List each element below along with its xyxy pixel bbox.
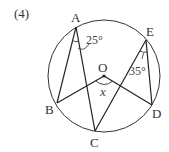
angle-value-O: x xyxy=(99,84,106,99)
angle-arc-E xyxy=(140,51,147,52)
angle-arc-A xyxy=(73,41,78,42)
label-A: A xyxy=(71,10,81,25)
segment-BO xyxy=(57,76,104,103)
label-D: D xyxy=(152,106,161,121)
label-O: O xyxy=(98,60,107,75)
angle-value-A: 25° xyxy=(86,33,103,47)
label-E: E xyxy=(146,24,154,39)
label-C: C xyxy=(90,135,99,150)
segment-ED xyxy=(146,40,152,105)
problem-label: (4) xyxy=(14,6,29,21)
segment-AB xyxy=(57,27,76,103)
angle-leader-E xyxy=(142,53,144,59)
geometry-diagram: (4) A E O B D C 25° 35° x xyxy=(0,0,169,152)
segment-OD xyxy=(104,76,152,105)
angle-value-E: 35° xyxy=(129,64,146,78)
label-B: B xyxy=(45,102,54,117)
